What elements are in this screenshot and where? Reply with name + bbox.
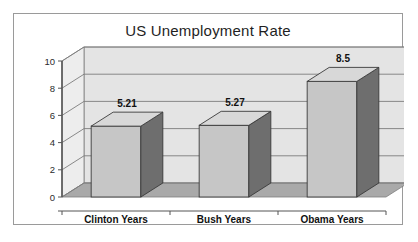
bar-value-label: 5.21 <box>117 98 137 109</box>
chart-plot-svg: 02468105.21Clinton Years5.27Bush Years8.… <box>14 14 404 226</box>
bar-side-face <box>357 67 379 197</box>
category-label: Obama Years <box>300 214 364 225</box>
bar-group <box>307 67 379 197</box>
bar-group <box>91 112 163 197</box>
chart-left-wall <box>62 47 84 197</box>
plot-area: 02468105.21Clinton Years5.27Bush Years8.… <box>14 14 404 226</box>
bar-front-face <box>91 126 141 197</box>
y-axis-tick-label: 10 <box>44 56 55 67</box>
y-axis-tick-label: 0 <box>50 192 55 203</box>
chart-frame: US Unemployment Rate 02468105.21Clinton … <box>13 13 403 225</box>
bar-value-label: 5.27 <box>225 97 245 108</box>
bar-side-face <box>249 111 271 197</box>
y-axis-tick-label: 8 <box>50 83 55 94</box>
category-label: Clinton Years <box>84 214 148 225</box>
y-axis-tick-label: 6 <box>50 110 55 121</box>
bar-side-face <box>141 112 163 197</box>
bar-group <box>199 111 271 197</box>
bar-value-label: 8.5 <box>336 53 350 64</box>
y-axis-tick-label: 4 <box>50 137 55 148</box>
category-label: Bush Years <box>197 214 252 225</box>
y-axis-tick-label: 2 <box>50 164 55 175</box>
bar-front-face <box>199 125 249 197</box>
chart-scene: 02468105.21Clinton Years5.27Bush Years8.… <box>44 47 404 225</box>
bar-front-face <box>307 81 357 197</box>
